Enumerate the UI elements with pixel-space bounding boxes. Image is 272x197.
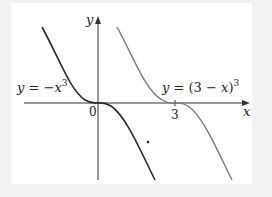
x-axis-label: x [243,104,251,119]
graph: y x 0 3 y = −x3 y = (3 − x)3 [0,0,272,197]
y-axis [95,16,101,180]
x-axis [24,100,250,106]
stray-dot [147,141,150,144]
curve-label-shifted-cubic: y = (3 − x)3 [161,78,239,95]
x-tick-label-3: 3 [171,108,179,122]
curve-label-neg-cubic: y = −x3 [16,78,68,95]
y-axis-label: y [85,12,94,27]
y-axis-arrow-icon [95,16,101,24]
origin-label: 0 [89,105,97,119]
